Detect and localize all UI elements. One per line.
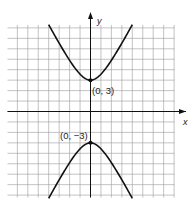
- y-axis-arrow-icon: [88, 12, 93, 19]
- lower-vertex-label: (0, −3): [60, 130, 88, 141]
- hyperbola-chart: y x (0, 3) (0, −3): [0, 0, 195, 206]
- y-axis-label: y: [96, 16, 102, 26]
- vertex-point: [89, 141, 93, 145]
- vertex-point: [89, 78, 93, 82]
- x-axis-label: x: [182, 117, 188, 127]
- x-axis-arrow-icon: [179, 109, 186, 114]
- upper-vertex-label: (0, 3): [92, 85, 114, 96]
- axes: [8, 12, 187, 198]
